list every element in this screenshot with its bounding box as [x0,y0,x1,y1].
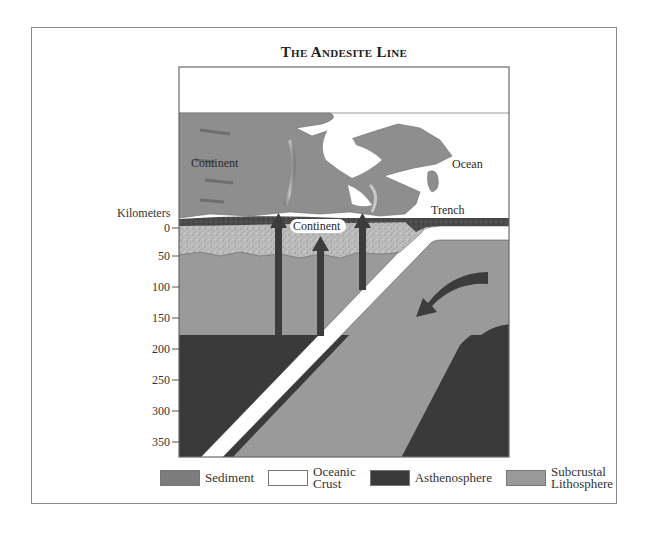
oceanic-crust-swatch [268,470,308,486]
legend: Sediment Oceanic Crust Asthenosphere Sub… [160,466,619,490]
lithosphere-swatch [506,470,546,486]
legend-item-oceanic-crust: Oceanic Crust [268,466,356,490]
axis-label: Kilometers [117,206,171,220]
depth-axis: 0 50 100 150 200 250 300 350 [152,221,179,449]
tick-label: 250 [152,373,170,387]
legend-label: Subcrustal Lithosphere [551,466,613,490]
tick-label: 0 [164,221,170,235]
tick-label: 200 [152,342,170,356]
legend-item-subcrustal-lithosphere: Subcrustal Lithosphere [506,466,613,490]
legend-label: Sediment [205,472,254,484]
tick-label: 300 [152,404,170,418]
legend-label: Oceanic Crust [313,466,356,490]
label-trench: Trench [431,203,465,217]
legend-item-sediment: Sediment [160,470,254,486]
label-continent-surface: Continent [191,156,239,170]
legend-item-asthenosphere: Asthenosphere [370,470,492,486]
tick-label: 350 [152,435,170,449]
andesite-line-diagram: Continent Ocean Trench Continent Kilomet… [0,0,648,537]
asthenosphere-swatch [370,470,410,486]
tick-label: 50 [158,249,170,263]
label-ocean: Ocean [452,157,483,171]
sediment-swatch [160,470,200,486]
tick-label: 150 [152,311,170,325]
label-continent-crust: Continent [293,219,341,233]
tick-label: 100 [152,280,170,294]
legend-label: Asthenosphere [415,472,492,484]
